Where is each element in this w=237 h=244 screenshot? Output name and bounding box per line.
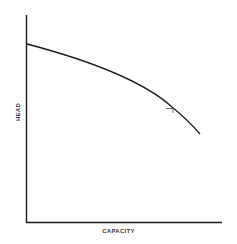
head-capacity-curve: [27, 44, 200, 134]
head-capacity-chart: [0, 0, 237, 244]
operating-point-marker: [166, 108, 174, 113]
y-axis-label: HEAD: [15, 103, 21, 121]
x-axis-label: CAPACITY: [0, 228, 237, 234]
